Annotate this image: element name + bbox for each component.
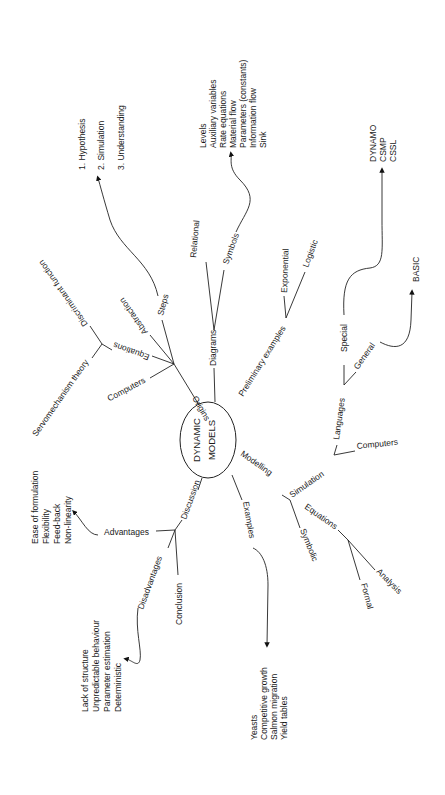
label-languages: Languages xyxy=(331,397,347,440)
svg-text:CSSL: CSSL xyxy=(388,140,398,162)
steps-item-3: 3. Understanding xyxy=(116,105,126,170)
branch-discussion: Discussion Advantages Disadvantages Conc… xyxy=(30,470,202,712)
label-general: General xyxy=(351,341,377,372)
center-label-2: MODELS xyxy=(206,420,217,460)
general-item-basic: BASIC xyxy=(411,256,421,282)
svg-text:Non-linearity: Non-linearity xyxy=(63,496,73,544)
symbols-list: Levels Auxiliary variables Rate equation… xyxy=(198,59,268,148)
label-formal: Formal xyxy=(359,582,376,610)
label-disadvantages: Disadvantages xyxy=(135,554,164,610)
mind-map: DYNAMIC MODELS Origins Computers Equatio… xyxy=(0,0,445,795)
center-label-1: DYNAMIC xyxy=(191,418,202,462)
label-advantages: Advantages xyxy=(104,527,149,537)
svg-text:Flexibility: Flexibility xyxy=(41,508,51,544)
label-preliminary: Preliminary examples xyxy=(236,324,288,398)
label-exponential: Exponential xyxy=(279,248,291,293)
label-computers: Computers xyxy=(106,375,147,403)
label-equations: Equations xyxy=(112,340,151,362)
label-servo: Servomechanism theory xyxy=(30,357,91,438)
label-origins: Origins xyxy=(190,394,212,422)
svg-text:Salmon migration: Salmon migration xyxy=(269,674,279,740)
label-computers-sim: Computers xyxy=(356,437,398,451)
label-relational: Relational xyxy=(188,220,201,259)
label-abstraction: Abstraction xyxy=(117,296,150,337)
label-special: Special xyxy=(339,324,349,352)
label-examples: Examples xyxy=(241,501,257,539)
svg-text:Yeasts: Yeasts xyxy=(249,715,259,740)
label-simulation: Simulation xyxy=(287,469,325,500)
svg-text:Rate equations: Rate equations xyxy=(218,91,228,148)
branch-preliminary: Preliminary examples Exponential Logisti… xyxy=(236,237,320,398)
branch-modelling: Modelling Simulation Symbolic Languages … xyxy=(239,124,421,610)
svg-text:Ease of formulation: Ease of formulation xyxy=(30,470,40,544)
svg-text:Deterministic: Deterministic xyxy=(113,662,123,712)
svg-text:Information flow: Information flow xyxy=(248,87,258,148)
svg-text:Lack of structure: Lack of structure xyxy=(80,649,90,712)
label-steps: Steps xyxy=(155,293,170,317)
label-discriminant: Discriminant function xyxy=(36,258,90,329)
branch-diagrams: Diagrams Relational Symbols Levels Auxil… xyxy=(188,59,268,402)
svg-text:Levels: Levels xyxy=(198,123,208,148)
svg-text:DYNAMO: DYNAMO xyxy=(368,124,378,162)
label-discussion: Discussion xyxy=(178,478,202,520)
branch-examples: Examples Yeasts Competitive growth Salmo… xyxy=(232,475,289,740)
label-symbols: Symbols xyxy=(220,232,241,266)
label-conclusion: Conclusion xyxy=(174,583,184,625)
branch-origins: Origins Computers Equations Abstraction … xyxy=(30,105,213,438)
disadvantages-list: Lack of structure Unpredictable behaviou… xyxy=(80,620,123,712)
svg-text:Parameter estimation: Parameter estimation xyxy=(102,631,112,712)
svg-text:Sink: Sink xyxy=(258,131,268,148)
svg-text:Unpredictable behaviour: Unpredictable behaviour xyxy=(91,620,101,712)
svg-text:Parameters (constants): Parameters (constants) xyxy=(238,59,248,148)
svg-text:CSMP: CSMP xyxy=(378,137,388,162)
label-diagrams: Diagrams xyxy=(208,330,218,366)
steps-item-2: 2. Simulation xyxy=(96,121,106,170)
svg-text:Competitive growth: Competitive growth xyxy=(259,667,269,740)
label-logistic: Logistic xyxy=(300,237,320,268)
advantages-list: Ease of formulation Flexibility Feed-bac… xyxy=(30,470,73,544)
special-list: DYNAMO CSMP CSSL xyxy=(368,124,398,162)
steps-item-1: 1. Hypothesis xyxy=(77,119,87,171)
label-analysis: Analysis xyxy=(375,566,404,595)
svg-text:Auxiliary variables: Auxiliary variables xyxy=(208,80,218,149)
svg-text:Yield tables: Yield tables xyxy=(279,696,289,740)
label-symbolic: Symbolic xyxy=(298,527,320,563)
label-modelling: Modelling xyxy=(239,448,275,477)
examples-list: Yeasts Competitive growth Salmon migrati… xyxy=(249,667,289,740)
svg-text:Feed-back: Feed-back xyxy=(52,503,62,544)
svg-text:Material flow: Material flow xyxy=(228,99,238,148)
